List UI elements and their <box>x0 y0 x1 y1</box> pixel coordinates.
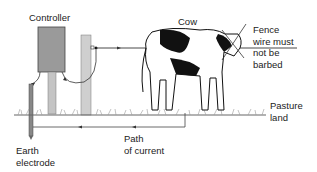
insulator <box>91 46 94 49</box>
cow-illustration <box>142 24 246 110</box>
fence-note-label: Fence wire must not be barbed <box>253 24 294 70</box>
controller-label: Controller <box>29 12 70 24</box>
pasture-label: Pasture land <box>270 100 303 123</box>
earth-electrode-label: Earth electrode <box>16 145 55 168</box>
earth-electrode <box>29 84 33 136</box>
cow-label: Cow <box>178 16 197 28</box>
controller-post <box>48 72 56 114</box>
current-path-label: Path of current <box>124 133 164 156</box>
controller-box <box>38 27 65 72</box>
fence-post <box>81 35 91 115</box>
